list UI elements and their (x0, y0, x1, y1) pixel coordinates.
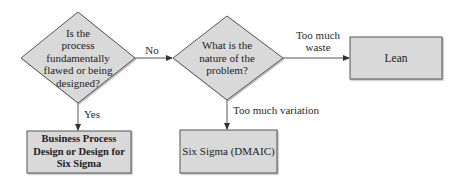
decision-1-text: Is the process fundamentally flawed or b… (33, 24, 123, 92)
decision-1-line: designed? (56, 77, 100, 90)
decision-1-line: Is the (66, 27, 90, 40)
edge-label-no: No (140, 44, 164, 57)
decision-1-line: fundamentally (46, 52, 110, 65)
decision-1-line: process (62, 39, 95, 52)
process-bpd-text: Business Process Design or Design for Si… (27, 131, 131, 173)
process-bpd-line: Business Process (42, 133, 117, 146)
process-bpd-line: Six Sigma (57, 158, 102, 171)
process-bpd-line: Design or Design for (33, 146, 125, 159)
edge-label-waste: Too much waste (290, 29, 346, 53)
decision-2-line: nature of the (199, 52, 255, 65)
process-lean-text: Lean (350, 37, 442, 79)
decision-2-line: problem? (206, 64, 248, 77)
edge-label-waste-line: waste (290, 41, 346, 53)
decision-2-text: What is the nature of the problem? (185, 37, 269, 79)
edge-label-variation: Too much variation (233, 104, 363, 117)
decision-2-line: What is the (202, 39, 252, 52)
edge-label-waste-line: Too much (290, 29, 346, 41)
process-sixsigma-text: Six Sigma (DMAIC) (180, 130, 277, 173)
decision-1-line: flawed or being (43, 64, 112, 77)
edge-label-yes: Yes (84, 108, 108, 121)
